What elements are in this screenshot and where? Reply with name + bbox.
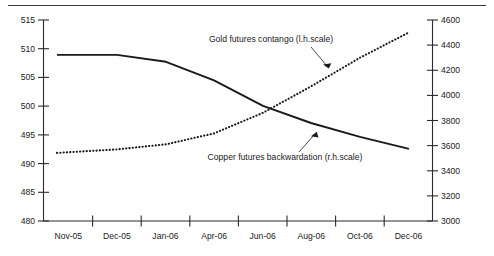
x-tick-label-dec-06: Dec-06 xyxy=(395,231,423,241)
left-tick-label-495: 495 xyxy=(21,130,36,140)
left-tick-label-500: 500 xyxy=(21,101,36,111)
x-tick-label-jan-06: Jan-06 xyxy=(152,231,178,241)
right-tick-label-4400: 4400 xyxy=(441,40,460,50)
right-tick-label-4200: 4200 xyxy=(441,65,460,75)
left-tick-label-490: 490 xyxy=(21,159,36,169)
arrow-head-copper xyxy=(311,132,318,138)
left-axis-ticks: 480 485 490 495 500 505 510 515 xyxy=(21,15,49,226)
x-tick-label-apr-06: Apr-06 xyxy=(201,231,227,241)
x-tick-label-aug-06: Aug-06 xyxy=(297,231,325,241)
x-tick-label-jun-06: Jun-06 xyxy=(250,231,276,241)
right-tick-label-4600: 4600 xyxy=(441,15,460,25)
leader-line-gold xyxy=(311,47,327,66)
leader-line-copper xyxy=(299,134,315,152)
arrow-head-gold xyxy=(323,63,331,68)
right-tick-label-3200: 3200 xyxy=(441,191,460,201)
chart-container: 480 485 490 495 500 505 510 515 3000 320… xyxy=(0,0,494,256)
series-label-copper-futures-backwardation: Copper futures backwardation (r.h.scale) xyxy=(208,152,363,162)
x-axis-ticks: Nov-05 Dec-05 Jan-06 Apr-06 Jun-06 Aug-0… xyxy=(54,216,422,242)
right-tick-label-3000: 3000 xyxy=(441,216,460,226)
annotation-gold-futures-contango: Gold futures contango (l.h.scale) xyxy=(209,34,333,69)
right-tick-label-3800: 3800 xyxy=(441,116,460,126)
left-tick-label-515: 515 xyxy=(21,15,36,25)
series-line-copper-futures-backwardation xyxy=(57,55,409,149)
series-label-gold-futures-contango: Gold futures contango (l.h.scale) xyxy=(209,34,333,44)
left-tick-label-480: 480 xyxy=(21,216,36,226)
chart-canvas: 480 485 490 495 500 505 510 515 3000 320… xyxy=(0,0,494,256)
x-tick-label-nov-05: Nov-05 xyxy=(54,231,82,241)
x-tick-label-oct-06: Oct-06 xyxy=(347,231,373,241)
right-tick-label-3400: 3400 xyxy=(441,166,460,176)
left-tick-label-505: 505 xyxy=(21,72,36,82)
annotation-copper-futures-backwardation: Copper futures backwardation (r.h.scale) xyxy=(208,132,363,162)
left-tick-label-485: 485 xyxy=(21,187,36,197)
right-tick-label-3600: 3600 xyxy=(441,141,460,151)
x-tick-label-dec-05: Dec-05 xyxy=(103,231,131,241)
right-tick-label-4000: 4000 xyxy=(441,90,460,100)
left-tick-label-510: 510 xyxy=(21,44,36,54)
